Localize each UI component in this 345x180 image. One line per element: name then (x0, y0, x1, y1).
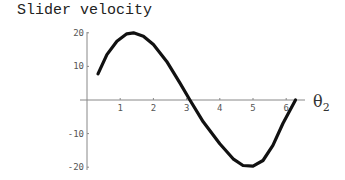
y-tick-label: -10 (68, 129, 84, 139)
x-tick-label: 1 (117, 103, 122, 113)
x-tick-label: 3 (184, 103, 189, 113)
chart-plot-area: 123456 2010-10-20 θ2 (0, 0, 345, 180)
x-axis-label-theta: θ (313, 92, 323, 111)
x-axis-label-subscript: 2 (323, 101, 330, 114)
x-axis-label: θ2 (313, 92, 330, 114)
x-tick-label: 5 (250, 103, 255, 113)
y-tick-label: 20 (73, 28, 84, 38)
y-tick-label: 10 (73, 61, 84, 71)
x-tick-label: 4 (217, 103, 222, 113)
y-tick-label: -20 (68, 162, 84, 172)
x-tick-label: 2 (151, 103, 156, 113)
